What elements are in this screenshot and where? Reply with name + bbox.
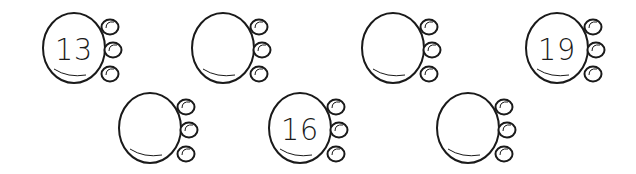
bug-number[interactable] [193, 28, 254, 72]
worksheet: 13 [0, 0, 636, 174]
bug-number: 13 [44, 28, 105, 72]
bug-3[interactable] [357, 8, 457, 92]
bug-2[interactable] [187, 8, 287, 92]
bug-number: 16 [270, 108, 331, 152]
bug-1: 13 [38, 8, 138, 92]
bug-number[interactable] [438, 108, 499, 152]
bug-number: 19 [527, 28, 588, 72]
bug-5[interactable] [114, 88, 214, 172]
bug-7[interactable] [432, 88, 532, 172]
bug-6: 16 [264, 88, 364, 172]
bug-number[interactable] [120, 108, 181, 152]
bug-4: 19 [521, 8, 621, 92]
bug-number[interactable] [363, 28, 424, 72]
